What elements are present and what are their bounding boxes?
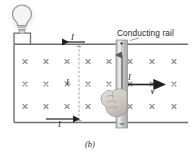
light-bulb — [5, 0, 39, 34]
current-label-rod: I — [128, 73, 131, 82]
conducting-rail-leader — [130, 38, 139, 41]
figure-caption: (b) — [85, 140, 95, 149]
hand — [101, 89, 127, 117]
length-label: L — [66, 78, 71, 87]
length-dimension-line — [77, 45, 82, 122]
current-label-bottom: I — [58, 120, 61, 129]
conducting-rail-figure — [0, 0, 194, 161]
left-wire — [14, 33, 31, 44]
velocity-label: v — [151, 88, 154, 96]
current-label-top: I — [71, 33, 74, 42]
conducting-rail-label: Conducting rail — [117, 29, 174, 37]
